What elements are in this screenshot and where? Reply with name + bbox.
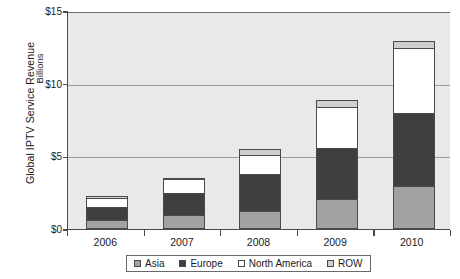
- bar-segment-north-america[interactable]: [87, 199, 127, 208]
- y-axis-tick-label: $15: [28, 7, 62, 17]
- bar-segment-row[interactable]: [394, 42, 434, 49]
- y-axis-tick-labels: $0$5$10$15: [28, 0, 62, 279]
- bar-group: [221, 12, 298, 229]
- legend-swatch-icon: [179, 260, 186, 267]
- legend-swatch-icon: [238, 260, 245, 267]
- y-axis-tick-label: $0: [28, 225, 62, 235]
- bars-layer: [68, 12, 450, 229]
- y-axis-tick-label: $5: [28, 152, 62, 162]
- legend-item-label: North America: [249, 258, 312, 269]
- bar-segment-europe[interactable]: [164, 194, 204, 216]
- bar-segment-north-america[interactable]: [317, 108, 357, 149]
- bar-segment-north-america[interactable]: [164, 180, 204, 194]
- legend-swatch-icon: [327, 260, 334, 267]
- x-axis-tick-label: 2009: [297, 236, 374, 248]
- legend-item-asia[interactable]: Asia: [134, 258, 164, 269]
- bar-group: [298, 12, 375, 229]
- legend-swatch-icon: [134, 260, 141, 267]
- bar-group: [145, 12, 222, 229]
- y-axis-tick-mark: [63, 84, 68, 85]
- x-axis-tick-label: 2007: [144, 236, 221, 248]
- x-axis-tick-mark: [450, 230, 451, 236]
- bar-segment-europe[interactable]: [317, 149, 357, 201]
- bar-segment-europe[interactable]: [240, 175, 280, 212]
- y-axis-tick-mark: [63, 11, 68, 12]
- stacked-bar-chart: Global IPTV Service Revenue Billions $0$…: [0, 0, 460, 279]
- bar-stack[interactable]: [163, 178, 205, 229]
- bar-group: [68, 12, 145, 229]
- bar-stack[interactable]: [239, 149, 281, 229]
- legend-item-north-america[interactable]: North America: [238, 258, 312, 269]
- bar-segment-row[interactable]: [317, 101, 357, 108]
- legend-item-label: Europe: [190, 258, 222, 269]
- bar-stack[interactable]: [316, 100, 358, 229]
- bar-stack[interactable]: [86, 196, 128, 229]
- bar-segment-north-america[interactable]: [240, 156, 280, 176]
- plot-area: [67, 12, 450, 230]
- bar-segment-asia[interactable]: [317, 200, 357, 228]
- bar-segment-asia[interactable]: [164, 216, 204, 228]
- legend-item-label: Asia: [145, 258, 164, 269]
- legend-item-europe[interactable]: Europe: [179, 258, 222, 269]
- bar-segment-europe[interactable]: [87, 208, 127, 221]
- bar-stack[interactable]: [393, 41, 435, 229]
- y-axis-tick-mark: [63, 157, 68, 158]
- bar-segment-europe[interactable]: [394, 114, 434, 188]
- legend-item-row[interactable]: ROW: [327, 258, 362, 269]
- x-axis-tick-label: 2008: [220, 236, 297, 248]
- bar-segment-north-america[interactable]: [394, 49, 434, 114]
- x-axis-tick-label: 2006: [67, 236, 144, 248]
- chart-legend: AsiaEuropeNorth AmericaROW: [126, 255, 371, 272]
- y-axis-tick-label: $10: [28, 80, 62, 90]
- bar-group: [374, 12, 451, 229]
- bar-segment-asia[interactable]: [394, 187, 434, 228]
- x-axis-tick-label: 2010: [373, 236, 450, 248]
- bar-segment-asia[interactable]: [87, 221, 127, 228]
- legend-item-label: ROW: [338, 258, 362, 269]
- bar-segment-asia[interactable]: [240, 212, 280, 228]
